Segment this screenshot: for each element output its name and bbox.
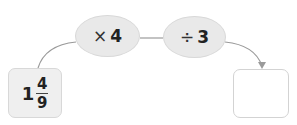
operand: 3	[197, 27, 209, 47]
whole-part: 1	[22, 83, 35, 104]
divide-icon: ÷	[180, 27, 194, 47]
result-answer-box[interactable]	[233, 69, 289, 118]
numerator: 4	[37, 76, 47, 92]
denominator: 9	[37, 95, 47, 111]
start-value-box: 1 4 9	[8, 68, 62, 118]
arrowhead-icon	[258, 62, 266, 69]
operand: 4	[110, 26, 122, 46]
mixed-number: 1 4 9	[9, 69, 61, 117]
multiply-icon: ×	[93, 26, 107, 46]
fraction: 4 9	[36, 76, 48, 111]
operation-multiply: × 4	[75, 15, 140, 57]
operation-divide: ÷ 3	[163, 16, 226, 58]
